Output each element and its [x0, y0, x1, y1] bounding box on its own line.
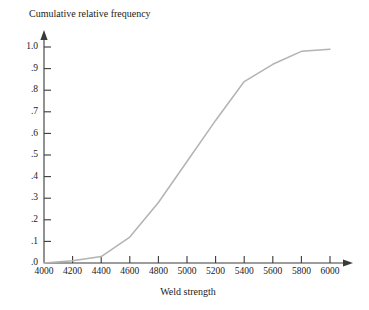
cumulative-frequency-line — [44, 49, 330, 263]
x-tick-label: 5400 — [235, 266, 254, 276]
y-tick-label: .9 — [31, 63, 38, 73]
x-tick-label: 4600 — [120, 266, 139, 276]
y-axis-group: .0.1.2.3.4.5.6.7.8.91.0 — [26, 30, 51, 267]
y-tick-label: .4 — [31, 171, 38, 181]
y-tick-label: .1 — [31, 236, 38, 246]
x-tick-label: 5800 — [292, 266, 311, 276]
cumulative-frequency-chart: .0.1.2.3.4.5.6.7.8.91.0 4000420044004600… — [0, 0, 369, 310]
y-tick-label: .3 — [31, 192, 38, 202]
x-tick-label: 4000 — [35, 266, 54, 276]
x-tick-label: 5000 — [178, 266, 197, 276]
y-tick-label: 1.0 — [26, 41, 38, 51]
x-tick-label: 6000 — [321, 266, 340, 276]
y-tick-label: .2 — [31, 214, 38, 224]
x-tick-label: 5200 — [206, 266, 225, 276]
y-axis-ticks — [44, 47, 51, 241]
y-tick-label: .7 — [31, 106, 38, 116]
x-axis-title: Weld strength — [160, 286, 216, 297]
y-tick-label: .6 — [31, 128, 38, 138]
y-axis-arrow-icon — [40, 30, 47, 40]
chart-canvas: .0.1.2.3.4.5.6.7.8.91.0 4000420044004600… — [0, 0, 369, 310]
x-axis-arrow-icon — [343, 259, 353, 266]
x-axis-ticks — [73, 256, 330, 263]
x-axis-tick-labels: 4000420044004600480050005200540056005800… — [35, 266, 340, 276]
y-tick-label: .8 — [31, 84, 38, 94]
x-tick-label: 4400 — [92, 266, 111, 276]
y-axis-tick-labels: .0.1.2.3.4.5.6.7.8.91.0 — [26, 41, 38, 267]
x-tick-label: 4800 — [149, 266, 168, 276]
y-tick-label: .5 — [31, 149, 38, 159]
x-tick-label: 4200 — [63, 266, 82, 276]
chart-title: Cumulative relative frequency — [29, 8, 151, 19]
x-tick-label: 5600 — [263, 266, 282, 276]
